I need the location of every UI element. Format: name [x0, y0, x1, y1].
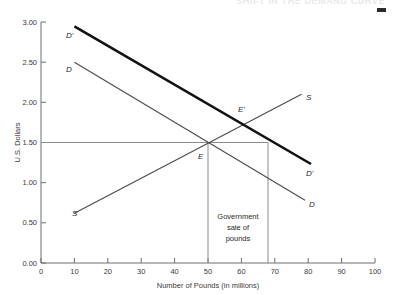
shift-in-demand-curve-figure: SHIFT IN THE DEMAND CURVE 0.00 0.50 1.00… — [0, 0, 393, 295]
y-tick-label: 3.00 — [22, 18, 37, 27]
supply-curve-label-left: S — [72, 209, 78, 218]
annotation-line-3: pounds — [226, 234, 251, 243]
supply-curve: S S — [72, 93, 312, 218]
y-tick-label: 1.50 — [22, 138, 37, 147]
y-tick-label: 0.50 — [22, 218, 37, 227]
demand-curve-shifted-label-left: D' — [66, 31, 74, 40]
x-tick-label: 50 — [204, 267, 212, 276]
y-axis-tick-labels: 0.00 0.50 1.00 1.50 2.00 2.50 3.00 — [22, 18, 37, 268]
supply-curve-label-right: S — [306, 93, 312, 102]
x-tick-label: 0 — [39, 267, 43, 276]
demand-curve-shifted: D' D' — [66, 26, 314, 178]
x-tick-label: 80 — [304, 267, 312, 276]
y-tick-label: 2.50 — [22, 58, 37, 67]
x-tick-label: 20 — [104, 267, 112, 276]
demand-curve-original-label-left: D — [66, 65, 72, 74]
government-sale-annotation: Government sale of pounds — [217, 212, 259, 243]
y-tick-label: 1.00 — [22, 178, 37, 187]
y-tick-label: 2.00 — [22, 98, 37, 107]
y-axis-title: U.S. Dollars — [13, 122, 22, 162]
annotation-line-1: Government — [217, 212, 259, 221]
x-axis-tick-labels: 0 10 20 30 40 50 60 70 80 90 100 — [39, 267, 381, 276]
equilibrium-label-original: E — [198, 152, 204, 161]
demand-curve-original: D D — [66, 62, 315, 209]
supply-demand-chart: 0.00 0.50 1.00 1.50 2.00 2.50 3.00 0 10 — [0, 0, 393, 295]
demand-curve-shifted-label-right: D' — [306, 169, 314, 178]
x-tick-label: 60 — [237, 267, 245, 276]
demand-curve-original-line — [74, 62, 305, 200]
demand-curve-original-label-right: D — [309, 200, 315, 209]
demand-curve-shifted-line — [74, 26, 311, 164]
reference-lines — [41, 143, 268, 264]
x-tick-label: 30 — [137, 267, 145, 276]
x-tick-label: 10 — [70, 267, 78, 276]
x-tick-label: 100 — [369, 267, 382, 276]
x-tick-label: 70 — [271, 267, 279, 276]
x-tick-label: 90 — [337, 267, 345, 276]
equilibrium-label-new: E' — [238, 105, 245, 114]
supply-curve-line — [74, 94, 301, 213]
x-tick-label: 40 — [170, 267, 178, 276]
y-tick-label: 0.00 — [22, 259, 37, 268]
annotation-line-2: sale of — [227, 223, 250, 232]
x-axis-title: Number of Pounds (in millions) — [157, 281, 260, 290]
